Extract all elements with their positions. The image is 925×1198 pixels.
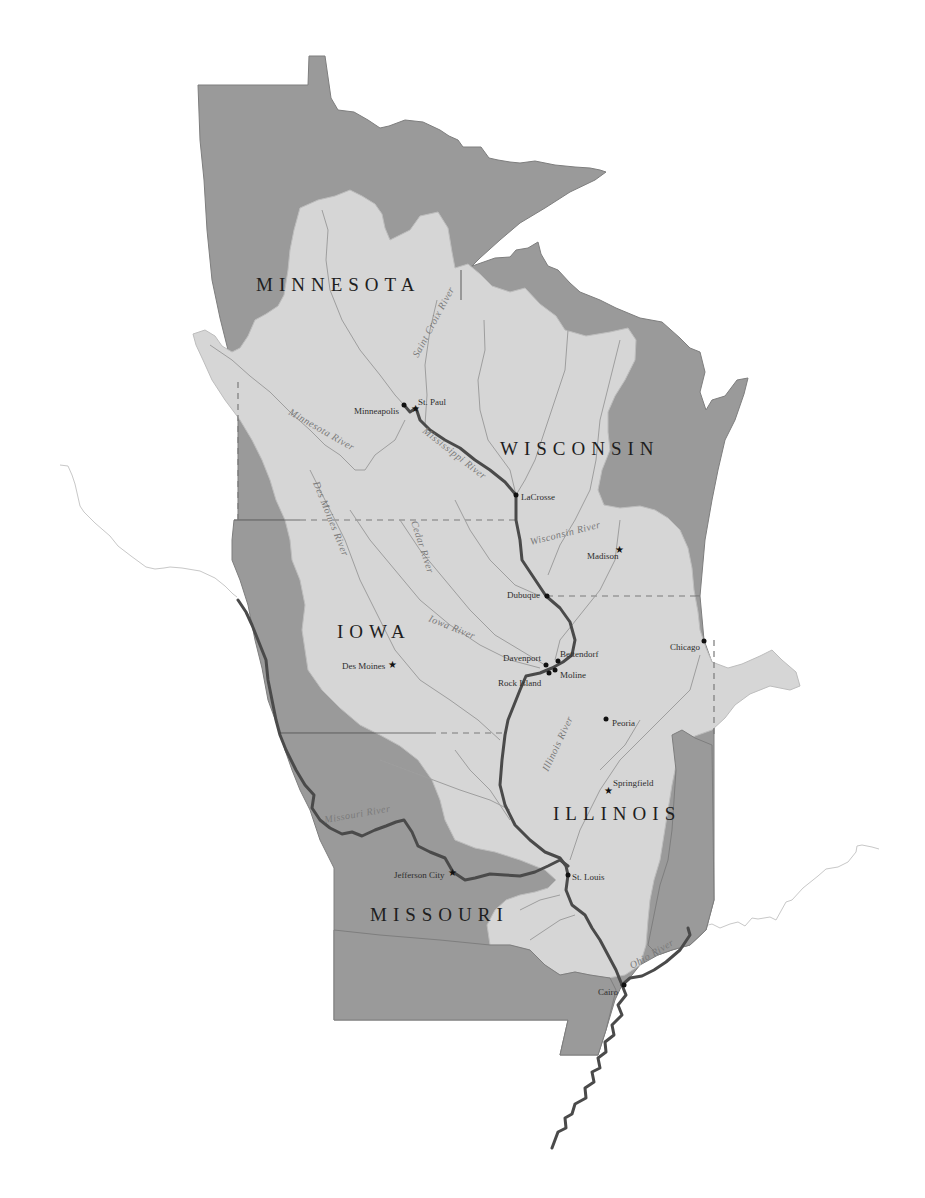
city-dot-lacrosse [514,493,519,498]
basin-map: MINNESOTA WISCONSIN IOWA ILLINOIS MISSOU… [0,0,925,1198]
city-label: St. Paul [418,397,447,407]
city-label: Rock Island [498,678,542,688]
state-label: MINNESOTA [256,274,420,295]
city-label: Minneapolis [354,406,399,416]
state-label: IOWA [337,621,411,642]
city-dot-minneapolis [402,403,407,408]
city-dot-peoria [604,717,609,722]
city-label: Des Moines [342,661,386,671]
state-label: ILLINOIS [553,803,681,824]
capital-star-icon: ★ [604,785,613,796]
outside-river-west [60,465,237,597]
city-dot-st-louis [566,873,571,878]
city-label: St. Louis [572,872,605,882]
city-label: Dubuque [507,590,540,600]
capital-star-icon: ★ [388,659,397,670]
city-dot-moline [553,668,558,673]
city-dot-chicago [702,639,707,644]
city-label: Jefferson City [394,870,445,880]
city-label: Peoria [612,718,635,728]
outside-river-ohio [688,845,879,928]
state-label: WISCONSIN [500,438,660,459]
state-label: MISSOURI [370,904,509,925]
city-label: Madison [587,551,619,561]
city-label: Davenport [503,653,541,663]
city-label: LaCrosse [521,492,555,502]
city-label: Cairo [598,987,618,997]
city-dot-dubuque [545,594,550,599]
city-dot-bettendorf [556,659,561,664]
city-label: Bettendorf [560,649,599,659]
city-dot-cairo [622,983,627,988]
capital-star-icon: ★ [448,867,457,878]
city-dot-davenport [544,663,549,668]
city-label: Chicago [670,642,700,652]
city-label: Springfield [613,778,654,788]
city-label: Moline [560,670,586,680]
city-dot-rock-island [547,671,552,676]
